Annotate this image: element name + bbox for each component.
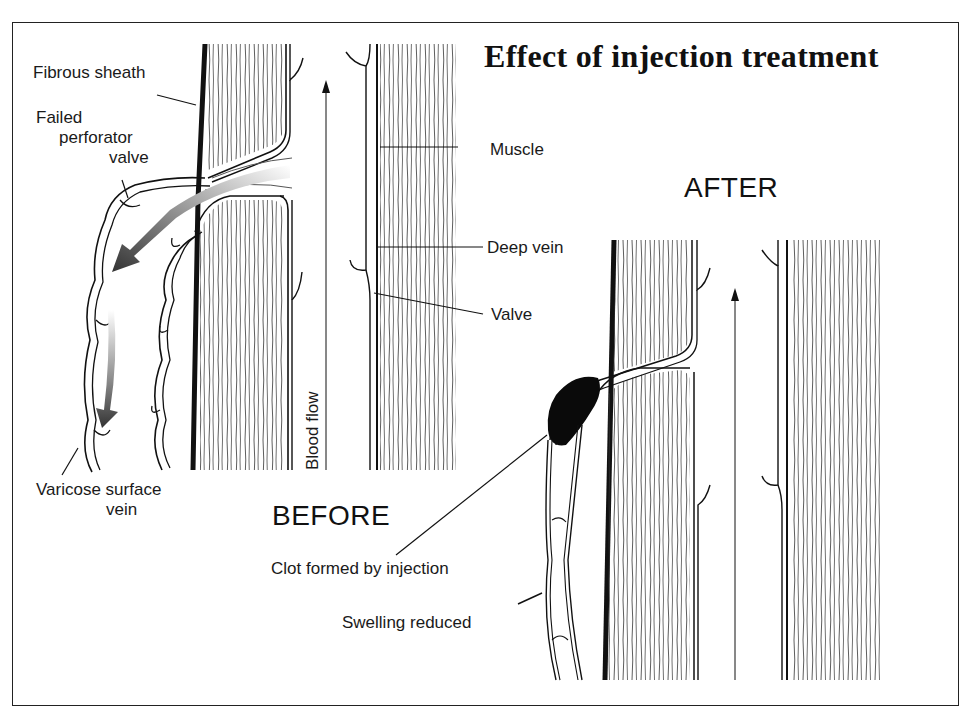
before-diagram	[62, 44, 483, 475]
label-deep-vein: Deep vein	[487, 238, 564, 258]
label-clot: Clot formed by injection	[271, 559, 449, 579]
label-varicose-line1: Varicose surface	[36, 480, 161, 500]
label-fibrous-sheath: Fibrous sheath	[33, 63, 145, 83]
label-varicose-line2: vein	[106, 500, 137, 520]
label-swelling: Swelling reduced	[342, 613, 471, 633]
label-failed-line3: valve	[109, 148, 149, 168]
label-muscle: Muscle	[490, 140, 544, 160]
label-failed-line2: perforator	[59, 128, 133, 148]
illustration	[0, 0, 972, 719]
diagram-title: Effect of injection treatment	[484, 38, 879, 75]
label-blood-flow: Blood flow	[303, 392, 323, 470]
heading-before: BEFORE	[272, 500, 390, 532]
label-valve: Valve	[491, 305, 532, 325]
label-failed-line1: Failed	[36, 108, 82, 128]
heading-after: AFTER	[684, 172, 778, 204]
